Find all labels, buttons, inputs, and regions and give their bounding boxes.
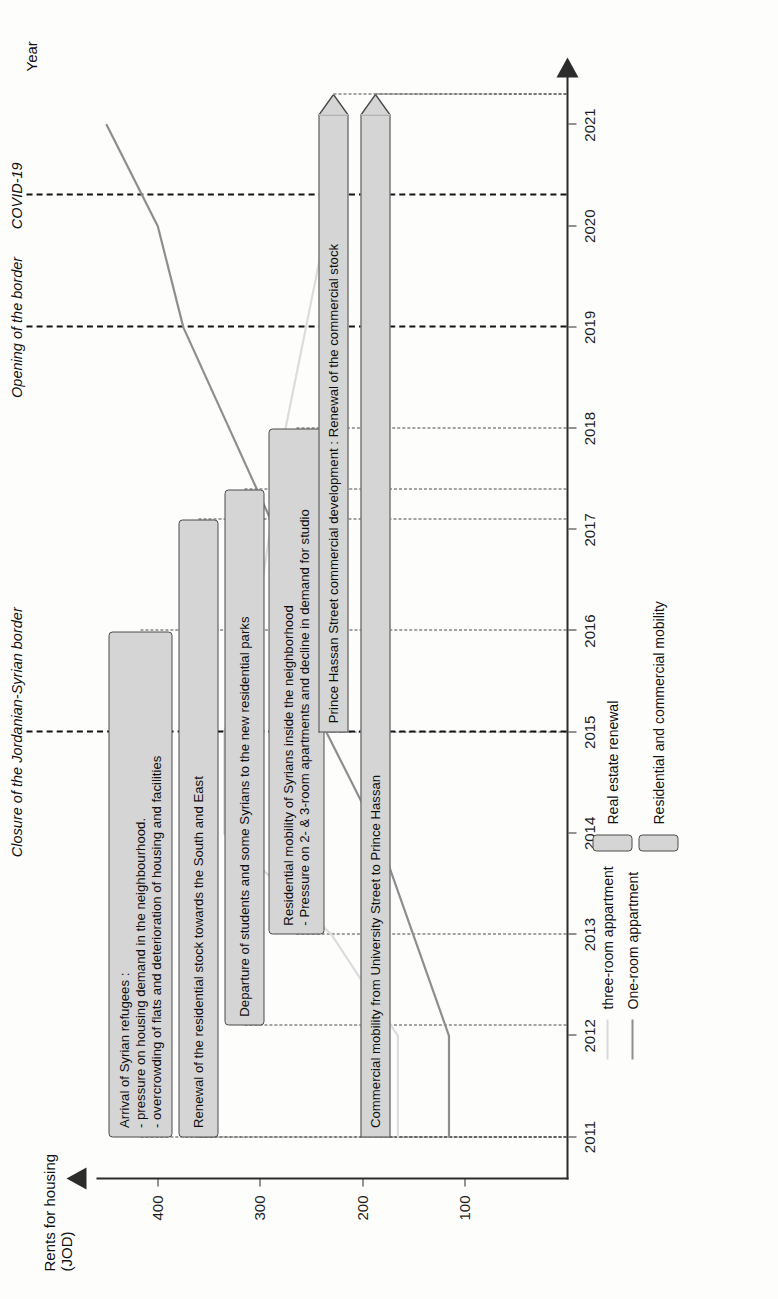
legend-swatch-residential-commercial-mobility [638, 834, 678, 851]
annotation-arrow-tip-icon [360, 94, 390, 115]
annotation-legend: Real estate renewal Residential and comm… [592, 601, 684, 851]
annotation-bar: Renewal of the residential stock towards… [178, 519, 218, 1136]
annotation-arrow-tip-icon [318, 94, 348, 115]
legend-item-real-estate-renewal: Real estate renewal [592, 601, 632, 851]
annotation-arrow-label: Prince Hassan Street commercial developm… [325, 243, 341, 722]
annotation-arrow: Prince Hassan Street commercial developm… [318, 94, 348, 732]
annotation-bar-label: Departure of students and some Syrians t… [236, 616, 252, 1016]
annotation-arrow: Commercial mobility from University Stre… [360, 94, 390, 1136]
annotation-arrow-body: Commercial mobility from University Stre… [360, 114, 390, 1136]
legend-label-residential-commercial-mobility: Residential and commercial mobility [650, 601, 666, 824]
legend-swatch-one-room [631, 1019, 633, 1059]
legend-label-real-estate-renewal: Real estate renewal [604, 700, 620, 824]
annotation-bar-label: Renewal of the residential stock towards… [190, 776, 206, 1128]
series-legend: three-room appartment One-room appartmen… [596, 866, 646, 1059]
legend-item-three-room: three-room appartment [596, 866, 618, 1059]
annotation-bar: Residential mobility of Syrians inside t… [268, 428, 324, 934]
annotation-arrow-label: Commercial mobility from University Stre… [367, 774, 383, 1127]
annotation-bar: Departure of students and some Syrians t… [224, 489, 264, 1025]
legend-label-one-room: One-room appartment [624, 871, 640, 1009]
annotation-arrow-body: Prince Hassan Street commercial developm… [318, 114, 348, 732]
annotation-bar: Arrival of Syrian refugees : - pressure … [108, 631, 172, 1137]
legend-swatch-three-room [606, 1019, 608, 1059]
legend-swatch-real-estate-renewal [592, 834, 632, 851]
annotation-bar-label: Residential mobility of Syrians inside t… [280, 509, 312, 925]
legend-item-one-room: One-room appartment [621, 866, 643, 1059]
annotation-bar-label: Arrival of Syrian refugees : - pressure … [116, 755, 164, 1127]
legend-item-residential-commercial-mobility: Residential and commercial mobility [638, 601, 678, 851]
legend-label-three-room: three-room appartment [599, 866, 615, 1009]
